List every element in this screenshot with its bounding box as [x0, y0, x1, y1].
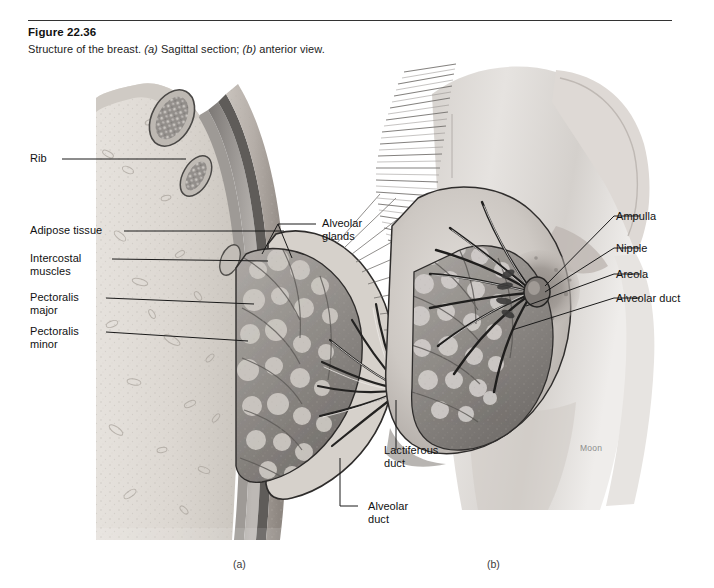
label-alveolar-duct-a-line2: duct — [368, 513, 389, 527]
caption-text-a: Sagittal section; — [158, 43, 243, 55]
label-pectoralis-major-line2: major — [30, 304, 58, 318]
label-intercostal-muscles-line1: Intercostal — [30, 252, 81, 266]
nipple-highlight-anterior — [528, 281, 540, 295]
label-alveolar-duct-anterior: Alveolar duct — [616, 292, 680, 306]
panel-label-b: (b) — [487, 558, 500, 570]
label-intercostal-muscles-line2: muscles — [30, 265, 71, 279]
caption-divider — [28, 20, 672, 21]
label-ampulla: Ampulla — [616, 210, 656, 224]
label-alveolar-duct-a-line1: Alveolar — [368, 500, 408, 514]
label-rib: Rib — [30, 152, 47, 166]
label-alveolar-glands-line2: glands — [322, 230, 355, 244]
label-areola: Areola — [616, 268, 648, 282]
caption-text-b: anterior view. — [256, 43, 325, 55]
artist-signature: Moon — [580, 443, 602, 453]
caption-tag-b: (b) — [243, 43, 257, 55]
anatomy-illustration — [0, 58, 714, 558]
illustration-area — [0, 58, 714, 558]
caption-lead: Structure of the breast. — [28, 43, 144, 55]
chest-bottom-fade — [96, 528, 286, 558]
figure-number: Figure 22.36 — [28, 26, 96, 38]
label-adipose-tissue: Adipose tissue — [30, 224, 102, 238]
label-pectoralis-major-line1: Pectoralis — [30, 291, 79, 305]
label-lactiferous-duct-line2: duct — [384, 457, 405, 471]
label-pectoralis-minor-line2: minor — [30, 338, 58, 352]
label-nipple: Nipple — [616, 242, 648, 256]
caption-tag-a: (a) — [144, 43, 158, 55]
figure-caption: Structure of the breast. (a) Sagittal se… — [28, 43, 325, 55]
label-pectoralis-minor-line1: Pectoralis — [30, 325, 79, 339]
figure-page: Figure 22.36 Structure of the breast. (a… — [0, 0, 714, 588]
label-lactiferous-duct-line1: Lactiferous — [384, 444, 438, 458]
label-alveolar-glands-line1: Alveolar — [322, 217, 362, 231]
panel-label-a: (a) — [233, 558, 246, 570]
